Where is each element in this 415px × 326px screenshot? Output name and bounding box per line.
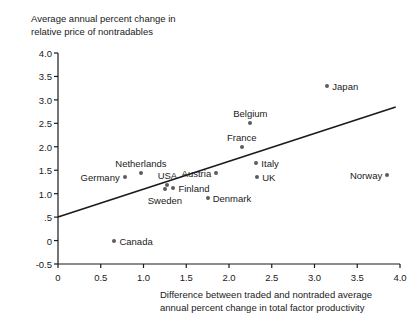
y-axis-tick-label: 3.0	[10, 94, 52, 105]
y-axis-tick-label: 1.0	[10, 188, 52, 199]
y-axis-tick-label: 1.5	[10, 165, 52, 176]
data-point-label-belgium: Belgium	[233, 108, 267, 119]
data-point-belgium	[248, 121, 252, 125]
x-axis-tick-label: 1.0	[137, 272, 150, 283]
data-point-netherlands	[139, 171, 143, 175]
data-point-austria	[214, 171, 218, 175]
data-point-label-france: France	[227, 132, 257, 143]
y-axis-tick-label: 0	[10, 235, 52, 246]
data-point-label-denmark: Denmark	[213, 193, 252, 204]
y-axis-tick-label: 2.5	[10, 118, 52, 129]
x-axis-tick-label: 2.5	[265, 272, 278, 283]
y-axis-tick-label: 3.5	[10, 71, 52, 82]
data-point-norway	[385, 173, 389, 177]
y-axis-tick-label: -0.5	[10, 259, 52, 270]
y-axis-tick-label: 2.0	[10, 141, 52, 152]
data-point-label-japan: Japan	[332, 80, 358, 91]
data-point-label-austria: Austria	[182, 167, 212, 178]
data-point-germany	[123, 175, 127, 179]
data-point-label-usa: USA	[158, 170, 178, 181]
data-point-label-germany: Germany	[81, 172, 120, 183]
data-point-sweden	[163, 187, 167, 191]
x-axis-tick-label: 3.5	[351, 272, 364, 283]
data-point-japan	[325, 84, 329, 88]
data-point-denmark	[206, 196, 210, 200]
y-axis-tick-label: .5	[10, 212, 52, 223]
data-point-finland	[171, 186, 175, 190]
x-axis-tick-label: 1.5	[180, 272, 193, 283]
data-point-uk	[255, 175, 259, 179]
data-point-label-finland: Finland	[178, 183, 209, 194]
y-axis-tick-label: 4.0	[10, 48, 52, 59]
data-point-france	[240, 145, 244, 149]
x-axis-tick-label: 2.0	[222, 272, 235, 283]
data-point-label-sweden: Sweden	[148, 195, 182, 206]
data-point-canada	[112, 239, 116, 243]
data-point-label-uk: UK	[262, 172, 275, 183]
x-axis-tick-label: 4.0	[393, 272, 406, 283]
data-point-label-canada: Canada	[119, 235, 152, 246]
x-axis-tick-label: 0.5	[94, 272, 107, 283]
data-point-italy	[254, 161, 258, 165]
scatter-chart-figure: Average annual percent change in relativ…	[0, 0, 415, 326]
data-point-label-netherlands: Netherlands	[115, 158, 166, 169]
x-axis-tick-label: 0	[55, 272, 60, 283]
x-axis-tick-label: 3.0	[308, 272, 321, 283]
data-point-label-norway: Norway	[350, 169, 382, 180]
data-point-label-italy: Italy	[261, 158, 278, 169]
